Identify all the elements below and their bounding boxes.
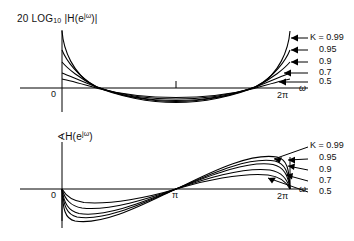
phase-legend-item-4: 0.5 — [319, 187, 332, 196]
figure-container: 20 LOG10 |H(ejω)| 0 2π ω K = 0.99 0.95 0… — [0, 0, 354, 241]
phase-xtick-0: 0 — [51, 191, 56, 200]
phase-xtick-pi: π — [172, 191, 178, 200]
phase-xtick-2pi: 2π — [277, 192, 288, 201]
magnitude-legend-item-1: 0.95 — [319, 45, 337, 54]
plot-svg — [0, 0, 354, 241]
phase-axis-title-baropen: H(e — [65, 131, 82, 142]
phase-panel — [20, 142, 308, 228]
magnitude-omega-label: ω — [299, 84, 306, 93]
magnitude-curve-k095 — [62, 50, 290, 102]
magnitude-xtick-2pi: 2π — [277, 91, 288, 100]
magnitude-axis-title-barclose: )| — [91, 13, 97, 24]
magnitude-axis-title-baropen: |H(e — [64, 13, 84, 24]
magnitude-legend-item-4: 0.5 — [319, 77, 332, 86]
magnitude-xtick-0: 0 — [51, 90, 56, 99]
phase-omega-label: ω — [299, 185, 306, 194]
magnitude-legend-item-2: 0.9 — [319, 57, 332, 66]
phase-axis-title-barclose: ) — [89, 131, 93, 142]
angle-icon: ∢ — [57, 131, 65, 142]
phase-legend-item-2: 0.9 — [319, 165, 332, 174]
magnitude-panel — [20, 30, 308, 112]
magnitude-legend-leaders — [279, 35, 308, 86]
magnitude-axis-title: 20 LOG10 |H(ejω)| — [17, 12, 98, 24]
phase-legend-item-1: 0.95 — [319, 153, 337, 162]
phase-legend-item-0: K = 0.99 — [310, 141, 344, 150]
magnitude-axis-title-subscript: 10 — [53, 17, 61, 24]
phase-legend-item-3: 0.7 — [319, 176, 332, 185]
magnitude-axis-title-prefix: 20 LOG — [17, 13, 53, 24]
phase-axis-title: ∢H(ejω) — [57, 130, 93, 142]
magnitude-legend-item-0: K = 0.99 — [310, 33, 344, 42]
magnitude-curve-k099 — [62, 31, 290, 103]
